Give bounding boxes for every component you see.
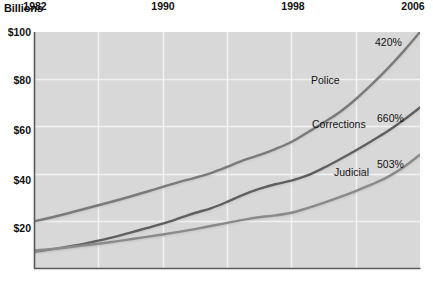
series-label-corrections: Corrections (312, 118, 366, 130)
y-tick-60: $60 (0, 124, 31, 136)
x-tick-1982: 1982 (14, 0, 56, 12)
x-tick-1990: 1990 (142, 0, 184, 12)
y-tick-20: $20 (0, 222, 31, 234)
annotation-corrections-pct: 660% (377, 112, 404, 124)
chart-plot-area (0, 0, 433, 297)
y-tick-80: $80 (0, 74, 31, 86)
annotation-police-pct: 420% (375, 36, 402, 48)
series-label-judicial: Judicial (334, 166, 369, 178)
y-axis-labels: $100 $80 $60 $40 $20 (0, 0, 31, 297)
y-tick-100: $100 (0, 26, 31, 38)
annotation-judicial-pct: 503% (377, 158, 404, 170)
x-tick-2006: 2006 (392, 0, 433, 12)
y-tick-40: $40 (0, 174, 31, 186)
chart-container: Billions (0, 0, 433, 297)
series-label-police: Police (311, 74, 340, 86)
x-tick-1998: 1998 (272, 0, 314, 12)
